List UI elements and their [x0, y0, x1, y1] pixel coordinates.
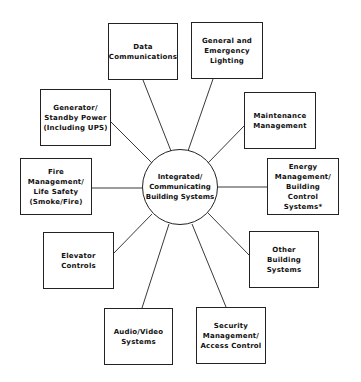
- node-general-emergency-lighting: General and Emergency Lighting: [191, 22, 263, 79]
- hub-integrated-building-systems: Integrated/ Communicating Building Syste…: [142, 149, 218, 225]
- connector-data-communications: [143, 80, 171, 151]
- connector-elevator-controls: [114, 214, 152, 253]
- connector-maintenance-management: [208, 126, 244, 163]
- diagram-canvas: Data CommunicationsGeneral and Emergency…: [0, 0, 361, 382]
- node-generator-standby-power: Generator/ Standby Power (Including UPS): [40, 89, 111, 146]
- connector-other-building-systems: [208, 213, 249, 255]
- node-maintenance-management: Maintenance Management: [244, 92, 316, 149]
- connector-general-emergency-lighting: [188, 79, 213, 151]
- node-elevator-controls: Elevator Controls: [43, 232, 114, 289]
- node-fire-management-life-safety: Fire Management/ Life Safety (Smoke/Fire…: [20, 158, 92, 215]
- node-audio-video-systems: Audio/Video Systems: [104, 308, 173, 365]
- node-energy-management-bcs: Energy Management/ Building Control Syst…: [267, 158, 339, 215]
- connector-audio-video-systems: [142, 224, 169, 308]
- node-security-access-control: Security Management/ Access Control: [196, 307, 266, 364]
- connector-security-access-control: [192, 224, 226, 307]
- node-other-building-systems: Other Building Systems: [249, 231, 319, 288]
- connector-generator-standby-power: [111, 122, 152, 163]
- node-data-communications: Data Communications: [108, 23, 178, 80]
